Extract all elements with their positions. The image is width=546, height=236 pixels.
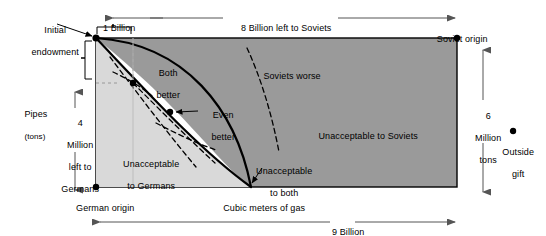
- soviets-worse-label: Soviets worse: [253, 60, 345, 93]
- initial-endowment-label: Initial endowment: [18, 14, 82, 69]
- even-better-label: Even better: [196, 99, 240, 154]
- figure-canvas: Initial endowment 1 Billion 8 Billion le…: [0, 0, 546, 236]
- both-better-point[interactable]: [130, 80, 136, 86]
- bracket-pipes-share: [81, 41, 92, 79]
- both-better-label: Both better: [140, 57, 186, 112]
- outside-gift-label: Outside gift: [487, 136, 539, 191]
- soviet-origin-label: Soviet origin: [417, 23, 497, 56]
- eight-billion-left-to-soviets-label: 8 Billion left to Soviets: [223, 12, 339, 45]
- german-origin-label: German origin: [62, 192, 138, 225]
- one-billion-label: 1 Billion: [81, 12, 147, 45]
- unacceptable-to-soviets-label: Unacceptable to Soviets: [298, 120, 428, 153]
- outside-gift-point[interactable]: [510, 128, 516, 134]
- nine-billion-label: 9 Billion: [305, 216, 381, 236]
- cubic-meters-of-gas-label: Cubic meters of gas: [204, 192, 314, 225]
